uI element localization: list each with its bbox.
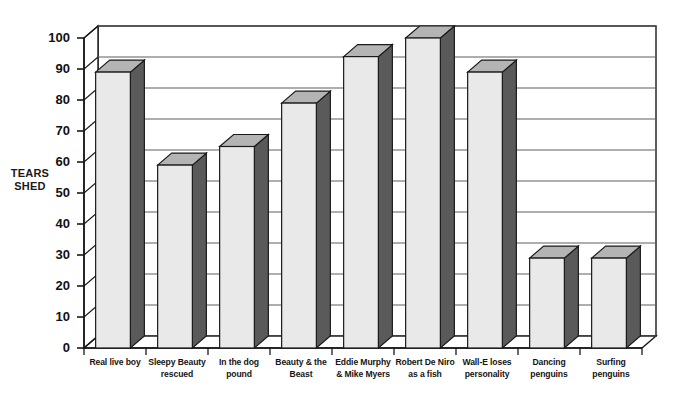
bar-front-face <box>344 57 379 348</box>
bar-side-face <box>316 91 330 348</box>
bar-side-face <box>564 246 578 348</box>
bar-column <box>96 60 145 348</box>
bar-side-face <box>192 153 206 348</box>
bar-front-face <box>406 38 441 348</box>
bar-side-face <box>502 60 516 348</box>
bar-column <box>406 26 455 348</box>
bar-column <box>344 45 393 348</box>
bar-chart: TEARS SHED 0102030405060708090100 Real l… <box>0 0 681 406</box>
bar-column <box>468 60 517 348</box>
bar-front-face <box>220 147 255 349</box>
bar-column <box>158 153 207 348</box>
bar-column <box>592 246 641 348</box>
bar-side-face <box>440 26 454 348</box>
plot-area <box>0 0 681 406</box>
bar-front-face <box>530 258 565 348</box>
bar-side-face <box>378 45 392 348</box>
bar-front-face <box>468 72 503 348</box>
bar-column <box>530 246 579 348</box>
bar-column <box>282 91 331 348</box>
bar-front-face <box>96 72 131 348</box>
bar-front-face <box>592 258 627 348</box>
bar-column <box>220 135 269 349</box>
bar-front-face <box>282 103 317 348</box>
bar-side-face <box>626 246 640 348</box>
bar-front-face <box>158 165 193 348</box>
bar-side-face <box>254 135 268 349</box>
bar-side-face <box>130 60 144 348</box>
